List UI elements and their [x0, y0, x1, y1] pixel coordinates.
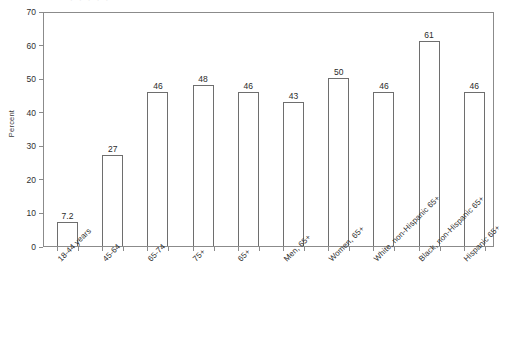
scan-artifact-text: · · · · · [70, 0, 330, 5]
bar [238, 92, 259, 246]
x-axis-tick-mark [283, 247, 284, 251]
bar-chart: · · · · · Percent 010203040506070 7.2274… [0, 0, 505, 341]
x-axis-tick-mark [304, 247, 305, 251]
bar-value-label: 46 [136, 81, 180, 91]
x-axis-tick-mark [214, 247, 215, 251]
x-axis-tick-mark [238, 247, 239, 251]
x-axis-tick-mark [394, 247, 395, 251]
y-axis-tick: 10 [0, 208, 43, 218]
bar-value-label: 48 [181, 74, 225, 84]
bar [102, 155, 123, 246]
bar [147, 92, 168, 246]
y-axis-tick: 60 [0, 41, 43, 51]
bar [373, 92, 394, 246]
bar [283, 102, 304, 246]
bar-value-label: 46 [452, 81, 496, 91]
y-axis-tick-label: 20 [27, 175, 36, 185]
y-axis-tick-label: 50 [27, 74, 36, 84]
y-axis-tick: 0 [0, 242, 43, 252]
bar-value-label: 43 [272, 91, 316, 101]
x-axis-tick-mark [485, 247, 486, 251]
x-axis-tick-mark [440, 247, 441, 251]
bar [193, 85, 214, 246]
bar-value-label: 46 [226, 81, 270, 91]
bar [328, 78, 349, 246]
x-axis-tick-mark [168, 247, 169, 251]
y-axis-tick-label: 70 [27, 7, 36, 17]
x-axis-tick-mark [419, 247, 420, 251]
y-axis-tick: 40 [0, 108, 43, 118]
x-axis-tick-mark [57, 247, 58, 251]
x-axis-tick-mark [78, 247, 79, 251]
y-axis-tick-label: 30 [27, 141, 36, 151]
y-axis-tick: 20 [0, 175, 43, 185]
y-axis-tick-label: 60 [27, 41, 36, 51]
x-axis-tick-mark [147, 247, 148, 251]
y-axis-tick: 70 [0, 7, 43, 17]
y-axis-tick: 50 [0, 74, 43, 84]
bar-value-label: 50 [317, 67, 361, 77]
y-axis-tick: 30 [0, 141, 43, 151]
bar-value-label: 61 [407, 30, 451, 40]
bar [464, 92, 485, 246]
bar-value-label: 7.2 [46, 211, 90, 221]
x-axis-tick-mark [349, 247, 350, 251]
y-axis-tick-label: 10 [27, 208, 36, 218]
x-axis-tick-mark [102, 247, 103, 251]
x-axis-tick-mark [259, 247, 260, 251]
bar-value-label: 46 [362, 81, 406, 91]
x-axis-tick-mark [373, 247, 374, 251]
y-axis-tick-label: 0 [31, 242, 36, 252]
y-axis-tick-label: 40 [27, 108, 36, 118]
x-axis-tick-mark [464, 247, 465, 251]
x-axis-tick-mark [123, 247, 124, 251]
x-axis-tick-mark [193, 247, 194, 251]
bar-value-label: 27 [91, 144, 135, 154]
x-axis-tick-mark [328, 247, 329, 251]
